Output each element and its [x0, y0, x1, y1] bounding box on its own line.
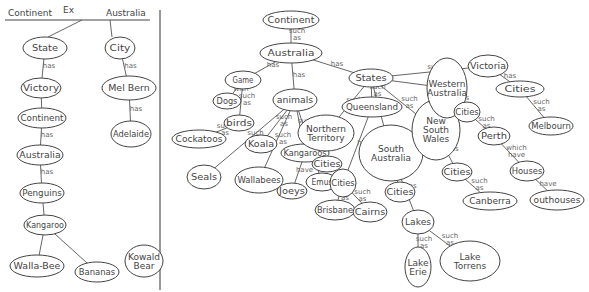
node-label: Victory [23, 83, 60, 93]
node-label: Houses [512, 166, 543, 176]
node-label: City [110, 43, 132, 53]
node-label: NewSouthWales [423, 116, 450, 144]
node-outhouses[interactable]: outhouses [530, 190, 584, 210]
node-l-koala[interactable]: KowaldBear [125, 245, 163, 277]
node-l-adelaide[interactable]: Adelaide [111, 121, 151, 147]
edge-label: has [41, 131, 54, 139]
node-qld-cities[interactable]: Cities [330, 169, 356, 197]
edge-header-state [48, 20, 82, 37]
node-nsw-cities[interactable]: Cities [442, 163, 472, 181]
node-lakes[interactable]: Lakes [402, 210, 434, 234]
node-lake-erie[interactable]: LakeErie [405, 247, 431, 287]
node-brisbane[interactable]: Brisbane [315, 200, 355, 220]
node-cairns[interactable]: Cairns [353, 202, 387, 222]
node-birds[interactable]: birds [224, 115, 254, 131]
node-label: Joeys [278, 186, 305, 196]
node-label: Penguins [22, 188, 62, 198]
nodes-layer: StateVictoryContinentAustraliaPenguinsKa… [10, 11, 584, 287]
node-label: Victoria [470, 61, 506, 71]
node-l-continent[interactable]: Continent [18, 108, 66, 128]
node-label: Continent [20, 113, 64, 123]
node-northern-territory[interactable]: NorthernTerritory [298, 115, 354, 151]
node-australia[interactable]: Australia [260, 43, 322, 63]
edge-label: whichhave [506, 144, 526, 159]
node-label: Continent [268, 15, 315, 25]
node-label: Seals [191, 172, 217, 182]
node-l-penguins[interactable]: Penguins [20, 183, 64, 203]
node-label: Mel Bern [108, 83, 150, 93]
node-l-australia[interactable]: Australia [17, 145, 63, 165]
node-wa-cities[interactable]: Cities [454, 102, 480, 122]
node-label: Queensland [346, 102, 398, 112]
node-houses[interactable]: Houses [510, 161, 544, 181]
node-label: State [32, 43, 58, 53]
node-sa-cities[interactable]: Cities [385, 182, 415, 202]
node-label: Cities [387, 187, 414, 197]
concept-map-canvas: Continent Ex Australia hashashashashassu… [0, 0, 589, 292]
node-label: Emus [312, 177, 333, 187]
header-australia: Australia [106, 8, 146, 18]
edge-label: have [539, 180, 556, 188]
header-example: Ex [63, 5, 75, 15]
node-continent[interactable]: Continent [263, 11, 319, 29]
node-joeys[interactable]: Joeys [277, 183, 307, 199]
node-label: animals [277, 95, 314, 105]
node-seals[interactable]: Seals [187, 165, 221, 189]
node-label: outhouses [534, 195, 581, 205]
legend-header: Continent Ex Australia [5, 5, 150, 20]
edge-label: has [130, 105, 143, 113]
node-melbourne[interactable]: Melbourn [529, 117, 573, 135]
node-label: Cities [455, 107, 479, 117]
node-label: Game [233, 75, 254, 85]
node-l-melbourne[interactable]: Mel Bern [102, 76, 156, 100]
node-label: Australia [19, 150, 60, 160]
node-cockatoos[interactable]: Cockatoos [172, 130, 226, 148]
node-lake-torrens[interactable]: LakeTorrens [440, 241, 500, 281]
edge-label: has [124, 62, 137, 70]
node-label: Walla-Bee [14, 261, 61, 271]
node-canberra[interactable]: Canberra [463, 192, 517, 210]
node-nt-cities[interactable]: Cities [312, 156, 342, 172]
node-label: Wallabees [237, 175, 280, 185]
node-label: Cairns [355, 207, 386, 217]
edge-label: has [331, 60, 344, 68]
node-l-city[interactable]: City [105, 37, 135, 59]
node-label: Cities [314, 159, 341, 169]
node-game[interactable]: Game [225, 71, 261, 89]
edge-label: has [293, 71, 306, 79]
node-label: Australia [268, 48, 315, 58]
node-label: Kangaroo [26, 220, 64, 230]
node-label: Perth [481, 131, 507, 141]
node-label: Cities [504, 84, 536, 94]
node-l-state[interactable]: State [23, 37, 67, 59]
header-continent: Continent [8, 8, 52, 18]
node-label: birds [226, 118, 252, 128]
node-label: Dogs [217, 96, 238, 106]
edge-label: has [41, 168, 54, 176]
node-dogs[interactable]: Dogs [213, 93, 241, 109]
node-perth[interactable]: Perth [478, 127, 510, 145]
edge-label: suchas [401, 95, 417, 110]
node-vic-cities[interactable]: Cities [496, 81, 544, 97]
node-victoria[interactable]: Victoria [468, 55, 508, 77]
node-l-bananas[interactable]: Bananas [75, 262, 119, 282]
node-koala[interactable]: Koala [245, 135, 277, 153]
edge-label: has [43, 62, 56, 70]
node-wallabees[interactable]: Wallabees [235, 167, 283, 193]
node-label: WesternAustralia [427, 78, 467, 97]
node-label: Cities [444, 167, 471, 177]
edge-label: suchas [533, 98, 549, 113]
node-queensland[interactable]: Queensland [342, 97, 402, 117]
edge-label: have [296, 166, 313, 174]
edge-label: suchas [471, 177, 487, 192]
node-l-wallabee[interactable]: Walla-Bee [10, 255, 64, 277]
node-animals[interactable]: animals [273, 89, 317, 111]
edge-header-city [110, 20, 112, 37]
node-states[interactable]: States [349, 69, 393, 87]
node-label: States [355, 73, 387, 83]
node-l-kangaroo[interactable]: Kangaroo [24, 215, 66, 235]
node-l-victory[interactable]: Victory [21, 78, 61, 98]
edge-label: suchas [354, 188, 370, 203]
node-label: Bananas [79, 267, 116, 277]
node-label: NorthernTerritory [306, 123, 346, 142]
